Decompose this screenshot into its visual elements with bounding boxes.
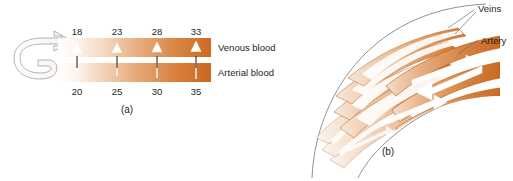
venous-value-4: 33 — [191, 26, 202, 37]
venous-value-1: 18 — [72, 26, 83, 37]
venous-value-3: 28 — [152, 26, 163, 37]
panel-b-caption: (b) — [382, 146, 394, 157]
arterial-blood-band — [58, 63, 211, 82]
arterial-value-2: 25 — [112, 86, 123, 97]
veins-label: Veins — [478, 3, 501, 14]
arterial-value-3: 30 — [152, 86, 163, 97]
arterial-value-4: 35 — [191, 86, 202, 97]
panel-b-limb-vasculature: Veins Artery (b) — [300, 0, 513, 181]
panel-a-countercurrent-schematic: 18 23 28 33 20 25 30 35 Venous blood Art… — [0, 0, 305, 181]
artery-label: Artery — [481, 35, 507, 46]
venous-blood-label: Venous blood — [218, 42, 276, 53]
vessel-network — [316, 28, 500, 168]
venous-blood-band — [58, 38, 211, 57]
panel-a-caption: (a) — [121, 104, 133, 115]
arterial-blood-label: Arterial blood — [218, 67, 274, 78]
panel-b-svg: Veins Artery (b) — [300, 0, 513, 181]
figure-root: 18 23 28 33 20 25 30 35 Venous blood Art… — [0, 0, 513, 181]
venous-value-2: 23 — [112, 26, 123, 37]
arterial-value-1: 20 — [72, 86, 83, 97]
panel-a-svg: 18 23 28 33 20 25 30 35 Venous blood Art… — [0, 0, 305, 181]
